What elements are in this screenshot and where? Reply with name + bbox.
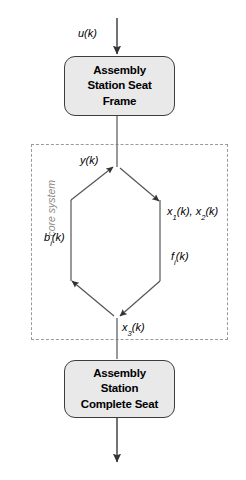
signal-x3-arg: (k) [132,321,145,333]
signal-b-arg: (k) [52,231,65,243]
signal-x3-subscript: 3 [128,329,132,338]
signal-f-arg: (k) [176,250,189,262]
signal-x3-base: x [122,321,128,333]
signal-x2-subscript: 2 [201,213,205,222]
arrow-cycle-left-to-top [71,167,113,200]
signal-x2-arg: (k) [205,205,218,217]
signal-x1-subscript: 1 [173,213,177,222]
signal-label-y: y(k) [80,155,98,166]
block-complete-seat-label: Assembly Station Complete Seat [76,366,163,412]
block-assembly-station-seat-frame[interactable]: Assembly Station Seat Frame [64,56,175,116]
signal-label-x3: x3(k) [122,322,145,333]
signal-x1-arg: (k), [177,205,196,217]
signal-label-u: u(k) [78,28,97,39]
block-seat-frame-label: Assembly Station Seat Frame [82,63,156,109]
signal-label-f: fi(k) [171,251,189,262]
signal-x1-base: x [167,205,173,217]
signal-y-text: y(k) [80,154,98,166]
arrow-cycle-top-to-right [120,168,159,201]
block-diagram: core system Assembly Station Seat [0,0,246,480]
signal-f-subscript: i [174,258,176,267]
signal-label-x1-x2: x1(k), x2(k) [167,206,218,217]
signal-b-subscript: i [50,239,52,248]
signal-u-text: u(k) [78,27,97,39]
arrow-cycle-right-to-bottom [120,281,160,316]
signal-label-b: bi(k) [44,232,65,243]
block-assembly-station-complete-seat[interactable]: Assembly Station Complete Seat [64,360,175,418]
arrow-cycle-bottom-to-left [72,281,114,316]
